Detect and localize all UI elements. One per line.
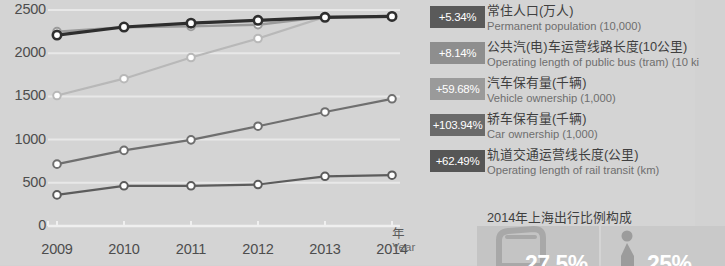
legend-change-badge: +62.49% [430,150,485,172]
x-axis-ticks: 200920102011201220132014 [0,232,430,254]
line-chart-panel: 05001000150020002500 2009201020112012201… [0,0,430,265]
travel-mode-share-icons: 27.5% 25% [477,226,725,266]
travel-mode-share-block: 2014年上海出行比例构成 27.5% 25% [430,190,695,265]
legend-label-en: Vehicle ownership (1,000) [487,91,695,106]
travel-mode-share-title: 2014年上海出行比例构成 [487,207,632,226]
y-tick-label: 0 [2,217,46,233]
pedestrian-mode-percent: 25% [647,251,692,266]
legend-label-cn: 常住人口(万人) [487,3,695,19]
y-tick-label: 2000 [2,44,46,60]
legend-label-cn: 轿车保有量(千辆) [487,111,695,127]
legend-label-en: Car ownership (1,000) [487,127,695,142]
y-axis-ticks: 05001000150020002500 [0,0,46,265]
legend-row[interactable]: +8.14%公共汽(电)车运营线路长度(10公里)Operating lengt… [430,42,695,73]
x-tick-label: 2011 [156,241,226,257]
legend-label-cn: 公共汽(电)车运营线路长度(10公里) [487,39,695,55]
x-tick-label: 2009 [22,241,92,257]
legend-label-en: Permanent population (10,000) [487,19,695,34]
legend-label-group: 常住人口(万人)Permanent population (10,000) [487,3,695,34]
legend-label-en: Operating length of rail transit (km) [487,163,695,178]
legend-label-group: 汽车保有量(千辆)Vehicle ownership (1,000) [487,75,695,106]
y-tick-label: 500 [2,174,46,190]
legend-label-group: 轿车保有量(千辆)Car ownership (1,000) [487,111,695,142]
legend-change-badge: +103.94% [430,114,485,136]
legend-row[interactable]: +59.68%汽车保有量(千辆)Vehicle ownership (1,000… [430,78,695,109]
legend-change-badge: +59.68% [430,78,485,100]
legend-label-group: 轨道交通运营线长度(公里)Operating length of rail tr… [487,147,695,178]
legend-label-cn: 轨道交通运营线长度(公里) [487,147,695,163]
chart-legend: +5.34%常住人口(万人)Permanent population (10,0… [430,0,695,190]
y-tick-label: 1000 [2,131,46,147]
bus-mode-percent: 27.5% [525,251,588,266]
legend-row[interactable]: +5.34%常住人口(万人)Permanent population (10,0… [430,6,695,37]
y-tick-label: 2500 [2,1,46,17]
legend-label-en: Operating length of public bus (tram) (1… [487,55,695,70]
chart-plot-area [0,0,430,265]
x-tick-label: 2012 [223,241,293,257]
y-tick-label: 1500 [2,87,46,103]
legend-label-cn: 汽车保有量(千辆) [487,75,695,91]
legend-change-badge: +5.34% [430,6,485,28]
legend-row[interactable]: +62.49%轨道交通运营线长度(公里)Operating length of … [430,150,695,181]
bus-mode-cell: 27.5% [477,226,599,266]
x-tick-label: 2013 [290,241,360,257]
legend-label-group: 公共汽(电)车运营线路长度(10公里)Operating length of p… [487,39,695,70]
legend-row[interactable]: +103.94%轿车保有量(千辆)Car ownership (1,000) [430,114,695,145]
pedestrian-mode-cell: 25% [601,226,725,266]
x-tick-label: 2010 [89,241,159,257]
legend-change-badge: +8.14% [430,42,485,64]
